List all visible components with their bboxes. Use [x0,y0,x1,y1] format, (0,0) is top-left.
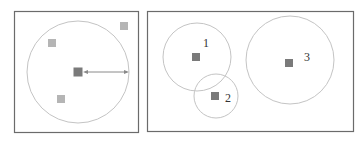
left-point-2 [120,22,128,30]
left-panel [15,12,139,133]
radius-arrow [83,70,129,74]
right-frame [148,12,354,132]
cluster-3: 3 [246,16,334,104]
right-panel: 1 2 3 [148,12,354,132]
left-point-3 [57,95,65,103]
cluster-2-label: 2 [225,91,231,105]
cluster-1-label: 1 [203,36,209,50]
left-point-1 [48,39,56,47]
cluster-2: 2 [194,74,238,118]
cluster-diagram: 1 2 3 [0,0,363,146]
left-center-point [74,68,83,77]
cluster-1: 1 [163,23,231,91]
cluster-3-label: 3 [304,50,310,64]
